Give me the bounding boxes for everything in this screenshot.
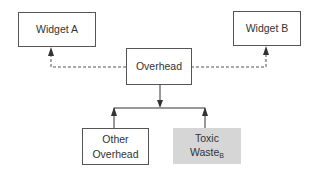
- node-toxic-waste: Toxic WasteB: [173, 128, 241, 164]
- node-widget-a: Widget A: [18, 12, 96, 47]
- node-widget-b: Widget B: [233, 11, 301, 46]
- dashed-edge-widget-a: [51, 50, 126, 67]
- node-label-line1: Toxic: [190, 131, 224, 145]
- node-label: Widget B: [246, 21, 289, 35]
- node-label-subscript: B: [219, 152, 224, 159]
- node-overhead: Overhead: [126, 48, 192, 85]
- node-label-line2: Waste: [190, 146, 219, 158]
- dashed-edge-widget-b: [191, 49, 266, 67]
- node-label: Widget A: [36, 22, 78, 36]
- node-label-line2: Overhead: [92, 147, 138, 161]
- node-label-line1: Other: [92, 132, 138, 146]
- node-label: Overhead: [136, 59, 182, 73]
- node-other-overhead: Other Overhead: [82, 128, 149, 165]
